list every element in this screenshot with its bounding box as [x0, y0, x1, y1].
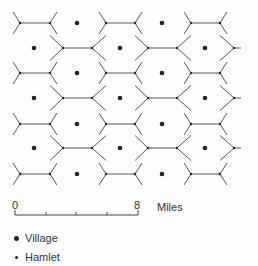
hamlet-points: [19, 22, 235, 175]
hexagonal-lattice-diagram: [0, 0, 258, 266]
village-dot-icon: [14, 236, 19, 241]
scale-bar: [15, 210, 138, 215]
hamlet-dot-icon: [15, 256, 18, 259]
scale-start-label: 0: [12, 199, 18, 211]
legend-item-hamlet: Hamlet: [14, 251, 60, 263]
legend-item-village: Village: [14, 232, 58, 244]
scale-end-label: 8: [134, 199, 140, 211]
legend-label-hamlet: Hamlet: [25, 251, 60, 263]
scale-unit-label: Miles: [157, 201, 183, 213]
legend-label-village: Village: [25, 232, 58, 244]
